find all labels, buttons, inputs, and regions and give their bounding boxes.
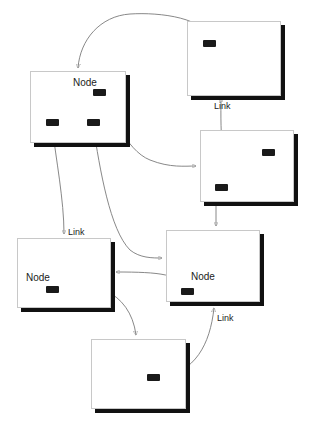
node-port[interactable]: [93, 89, 106, 96]
node-port[interactable]: [215, 184, 228, 191]
link-label: Link: [217, 313, 234, 323]
node-n2[interactable]: [187, 21, 281, 96]
node-n5[interactable]: Node: [166, 230, 260, 302]
node-port[interactable]: [46, 286, 59, 293]
node-port[interactable]: [203, 40, 216, 47]
node-port[interactable]: [147, 374, 160, 381]
diagram-canvas: NodeNodeNode LinkLinkLink: [0, 0, 315, 430]
node-n1[interactable]: Node: [30, 71, 126, 143]
node-port[interactable]: [87, 119, 100, 126]
node-label: Node: [73, 77, 97, 88]
node-port[interactable]: [46, 119, 59, 126]
node-n3[interactable]: [200, 130, 294, 202]
node-label: Node: [191, 271, 215, 282]
node-label: Node: [26, 272, 50, 283]
link-label: Link: [214, 101, 231, 111]
node-n4[interactable]: Node: [17, 238, 111, 308]
node-n6[interactable]: [91, 339, 186, 409]
link-label: Link: [68, 227, 85, 237]
node-port[interactable]: [181, 288, 194, 295]
node-port[interactable]: [262, 149, 275, 156]
